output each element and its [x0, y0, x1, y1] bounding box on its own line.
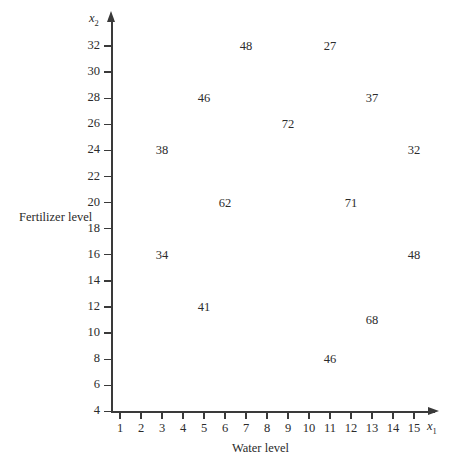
x-tick-label: 4 — [172, 422, 194, 435]
x-tick-mark — [413, 411, 414, 419]
y-tick-mark — [104, 306, 112, 307]
x-tick-mark — [203, 411, 204, 419]
y-tick-label: 28 — [74, 91, 100, 104]
data-point-label: 71 — [339, 196, 363, 209]
y-tick-label: 8 — [74, 352, 100, 365]
y-tick-mark — [104, 254, 112, 255]
y-axis-arrow-icon — [107, 11, 115, 22]
data-point-label: 48 — [402, 248, 426, 261]
y-tick-label: 22 — [74, 170, 100, 183]
data-point-label: 38 — [150, 144, 174, 157]
data-point-label: 37 — [360, 92, 384, 105]
y-tick-mark — [104, 98, 112, 99]
x-tick-label: 15 — [403, 422, 425, 435]
data-point-label: 32 — [402, 144, 426, 157]
y-tick-label: 6 — [74, 378, 100, 391]
x-tick-label: 2 — [130, 422, 152, 435]
x-tick-mark — [392, 411, 393, 419]
x-tick-label: 5 — [193, 422, 215, 435]
y-tick-label: 18 — [74, 222, 100, 235]
y-tick-mark — [104, 385, 112, 386]
y-axis-variable-label: x2 — [89, 11, 99, 28]
x-tick-label: 3 — [151, 422, 173, 435]
x-tick-mark — [287, 411, 288, 419]
data-point-label: 34 — [150, 248, 174, 261]
x-tick-label: 10 — [298, 422, 320, 435]
y-tick-mark — [104, 202, 112, 203]
y-tick-mark — [104, 45, 112, 46]
data-point-label: 62 — [213, 196, 237, 209]
y-tick-label: 16 — [74, 248, 100, 261]
x-tick-label: 6 — [214, 422, 236, 435]
x-tick-label: 14 — [382, 422, 404, 435]
x-axis-arrow-icon — [428, 407, 439, 415]
y-tick-label: 14 — [74, 274, 100, 287]
x-tick-label: 12 — [340, 422, 362, 435]
y-tick-mark — [104, 359, 112, 360]
x-tick-label: 11 — [319, 422, 341, 435]
x-tick-mark — [161, 411, 162, 419]
y-tick-mark — [104, 411, 112, 412]
y-tick-label: 20 — [74, 196, 100, 209]
y-tick-mark — [104, 228, 112, 229]
scatter-plot: x2 x1 Fertilizer level Water level 46810… — [0, 0, 464, 467]
data-point-label: 48 — [234, 40, 258, 53]
x-tick-mark — [308, 411, 309, 419]
y-tick-label: 4 — [74, 404, 100, 417]
x-axis-title: Water level — [232, 441, 289, 455]
x-tick-mark — [329, 411, 330, 419]
data-point-label: 27 — [318, 40, 342, 53]
y-tick-label: 30 — [74, 65, 100, 78]
x-axis-variable-label: x1 — [427, 419, 437, 436]
x-tick-mark — [140, 411, 141, 419]
x-tick-label: 9 — [277, 422, 299, 435]
y-tick-label: 24 — [74, 143, 100, 156]
y-tick-mark — [104, 176, 112, 177]
data-point-label: 46 — [192, 92, 216, 105]
x-tick-label: 8 — [256, 422, 278, 435]
y-tick-mark — [104, 124, 112, 125]
y-tick-mark — [104, 332, 112, 333]
x-tick-mark — [224, 411, 225, 419]
y-tick-mark — [104, 150, 112, 151]
x-axis-line — [111, 411, 435, 413]
y-tick-mark — [104, 280, 112, 281]
y-tick-label: 12 — [74, 300, 100, 313]
y-tick-mark — [104, 71, 112, 72]
x-tick-mark — [371, 411, 372, 419]
x-tick-label: 1 — [109, 422, 131, 435]
x-tick-label: 7 — [235, 422, 257, 435]
x-tick-mark — [350, 411, 351, 419]
x-tick-mark — [119, 411, 120, 419]
y-axis-line — [111, 18, 113, 412]
y-tick-label: 26 — [74, 117, 100, 130]
x-tick-mark — [182, 411, 183, 419]
data-point-label: 46 — [318, 353, 342, 366]
data-point-label: 72 — [276, 118, 300, 131]
data-point-label: 41 — [192, 301, 216, 314]
y-tick-label: 10 — [74, 326, 100, 339]
x-tick-mark — [266, 411, 267, 419]
data-point-label: 68 — [360, 314, 384, 327]
x-tick-mark — [245, 411, 246, 419]
y-tick-label: 32 — [74, 39, 100, 52]
x-tick-label: 13 — [361, 422, 383, 435]
